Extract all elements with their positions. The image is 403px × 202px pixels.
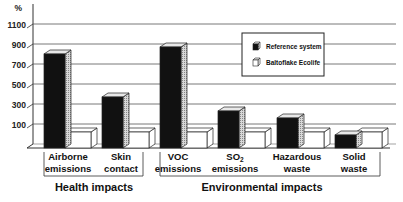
- category-label: Skin: [111, 151, 131, 162]
- bar-reference-system: [218, 107, 245, 148]
- bar-reference-system: [160, 43, 187, 148]
- category-label: emissions: [45, 163, 91, 174]
- category-label: Solid: [342, 151, 365, 162]
- category-label: Airborne: [48, 151, 88, 162]
- category-label: emissions: [212, 163, 258, 174]
- bar-reference-system: [335, 131, 362, 148]
- y-tick-label: 100: [12, 120, 26, 130]
- category-label: waste: [283, 163, 310, 174]
- category-label: waste: [340, 163, 367, 174]
- category-label: Hazardous: [273, 151, 322, 162]
- legend-label: Baltoflake Ecolife: [266, 59, 321, 66]
- category-label: emissions: [155, 163, 201, 174]
- bar-reference-system: [102, 93, 129, 148]
- category-label: VOC: [168, 151, 189, 162]
- bars: [44, 43, 388, 148]
- group-label-health: Health impacts: [55, 181, 133, 193]
- y-tick-label: 500: [12, 80, 26, 90]
- category-label: SO2: [226, 151, 244, 163]
- bar-reference-system: [277, 114, 304, 148]
- bar-chart: 1003005007009001100% AirborneemissionsSk…: [0, 0, 403, 202]
- category-label: contact: [104, 163, 139, 174]
- y-axis-unit: %: [14, 3, 22, 13]
- group-label-environmental: Environmental impacts: [201, 181, 322, 193]
- y-tick-label: 1100: [8, 20, 27, 30]
- category-labels: AirborneemissionsSkincontactVOCemissions…: [44, 151, 380, 193]
- y-tick-label: 300: [12, 100, 26, 110]
- y-tick-label: 900: [12, 40, 26, 50]
- legend-label: Reference system: [266, 43, 322, 51]
- legend: Reference systemBaltoflake Ecolife: [242, 33, 324, 76]
- bar-reference-system: [44, 50, 71, 148]
- y-tick-label: 700: [12, 60, 26, 70]
